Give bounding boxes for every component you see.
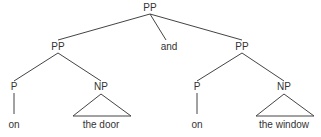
right-np-triangle: [256, 94, 314, 116]
left-p-word: on: [8, 120, 19, 130]
left-np-words: the door: [83, 120, 120, 130]
conj-label: and: [161, 42, 178, 52]
edge-leftpp-p: [14, 53, 58, 81]
right-p-word: on: [191, 120, 202, 130]
left-p-label: P: [11, 82, 18, 92]
left-np-triangle: [73, 94, 131, 116]
left-pp-label: PP: [51, 42, 64, 52]
edge-leftpp-np: [58, 53, 101, 81]
edge-rightpp-p: [197, 53, 242, 81]
edge-root-leftpp: [58, 14, 150, 40]
right-np-label: NP: [277, 82, 291, 92]
tree-edges: [0, 0, 321, 137]
left-np-label: NP: [94, 82, 108, 92]
right-pp-label: PP: [235, 42, 248, 52]
right-p-label: P: [194, 82, 201, 92]
root-pp-label: PP: [143, 3, 156, 13]
right-np-words: the window: [259, 120, 309, 130]
edge-rightpp-np: [242, 53, 284, 81]
